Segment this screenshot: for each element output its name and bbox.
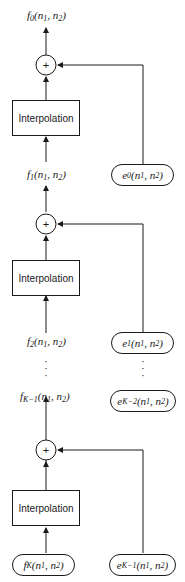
adder-symbol: + <box>43 444 49 456</box>
error-input-e1: e1(n1, n2) <box>111 332 174 354</box>
ellipsis-right: ··· <box>140 358 146 379</box>
interpolation-block-2: Interpolation <box>12 260 80 296</box>
output-label-f1: f1(n1, n2) <box>27 168 66 184</box>
output-label-f0: f0(n1, n2) <box>27 9 66 25</box>
interpolation-label: Interpolation <box>18 503 73 514</box>
output-label-fK-1: fK−1(n1, n2) <box>20 390 70 406</box>
error-input-e0: e0(n1, n2) <box>111 164 174 186</box>
interpolation-label: Interpolation <box>18 273 73 284</box>
adder-symbol: + <box>43 218 49 230</box>
interpolation-block-3: Interpolation <box>12 490 80 526</box>
error-input-eK-2: eK−2(n1, n2) <box>110 390 176 412</box>
output-label-f2: f2(n1, n2) <box>27 335 66 351</box>
interpolation-label: Interpolation <box>18 113 73 124</box>
error-input-eK-1: eK−1(n1, n2) <box>109 554 176 576</box>
input-fK: fK(n1, n2) <box>12 554 75 576</box>
interpolation-block-1: Interpolation <box>12 100 80 136</box>
ellipsis-left: ··· <box>43 358 49 379</box>
adder-symbol: + <box>43 59 49 71</box>
